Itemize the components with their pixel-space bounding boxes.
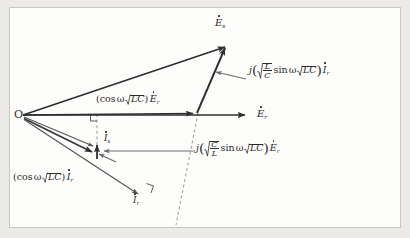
jLC-phasor: I: [323, 64, 327, 75]
label-E-r-axis-sub: r: [264, 113, 267, 120]
dashed-construction-lines: [97, 113, 198, 225]
jCL-radical-frac: C L: [204, 140, 218, 158]
jCL-phasor: E: [270, 142, 277, 153]
label-I-s: Is: [104, 134, 110, 144]
cos-Er-cos: cos: [100, 93, 116, 104]
expression-jL-over-C: j( L C sinω LC)Ir: [249, 62, 329, 80]
expression-jC-over-L: j( C L sinω LC)Er: [196, 140, 280, 158]
leader-line-jL-over-C: [216, 72, 246, 79]
jLC-close-paren: ): [316, 64, 321, 78]
vector-layer: [0, 0, 410, 238]
right-angle-markers: [91, 115, 154, 194]
jLC-radical-frac: L C: [257, 62, 271, 80]
cos-Er-radical: LC: [125, 94, 144, 104]
vector-cos-term-I-r: [24, 119, 92, 153]
jLC-phasor-sub: r: [327, 70, 330, 76]
jLC-fraction: L C: [263, 62, 271, 80]
jLC-denominator: C: [263, 71, 271, 79]
vector-jL-over-C-I-r: [197, 48, 225, 113]
jCL-fraction: C L: [210, 140, 218, 158]
jCL-phasor-sub: r: [277, 148, 280, 154]
leader-line-cos-I-r: [99, 154, 116, 162]
label-E-r-axis: Er: [257, 109, 267, 120]
jCL-omega: ω: [235, 142, 245, 153]
label-E-s-sub: s: [222, 22, 225, 29]
cos-Er-phasor-sub: r: [157, 99, 160, 105]
label-I-r-base: I: [133, 195, 137, 205]
label-E-s-base: E: [215, 17, 222, 28]
right-angle-icon-lower: [147, 184, 154, 194]
origin-label: O: [14, 109, 23, 120]
cos-Er-omega: ω: [116, 93, 126, 104]
expression-cos-I-r: (cosω LC)Ir: [13, 172, 73, 183]
label-I-r: Ir: [133, 196, 139, 206]
cos-Ir-omega: ω: [33, 171, 43, 182]
jCL-radical-lc: LC: [244, 143, 263, 153]
label-E-s: Es: [215, 18, 225, 29]
jLC-radical-lc: LC: [297, 65, 316, 75]
cos-Ir-radical: LC: [42, 172, 61, 182]
jLC-sin: sin: [272, 64, 288, 75]
cos-Ir-cos: cos: [17, 171, 33, 182]
label-E-r-axis-base: E: [257, 108, 264, 119]
label-I-s-base: I: [104, 133, 108, 143]
expression-cos-E-r: (cosω LC)Er: [96, 94, 159, 105]
jCL-denominator: L: [210, 149, 218, 157]
jCL-sin: sin: [219, 142, 235, 153]
jCL-close-paren: ): [263, 142, 268, 156]
cos-Er-phasor: E: [150, 93, 157, 104]
jLC-omega: ω: [288, 64, 298, 75]
dashed-projection-line: [176, 113, 198, 225]
cos-Ir-phasor: I: [67, 171, 71, 182]
phasor-diagram-figure: O Es Er Is Ir (cosω LC)Er (cosω LC)Ir j(: [0, 0, 410, 238]
cos-Ir-phasor-sub: r: [70, 177, 73, 183]
